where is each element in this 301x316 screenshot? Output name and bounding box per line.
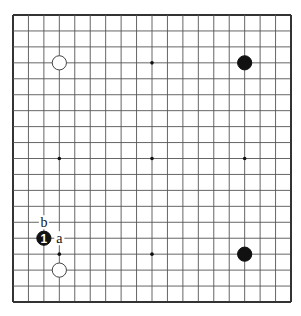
black-stone xyxy=(238,56,252,70)
star-point xyxy=(58,252,62,256)
star-point xyxy=(150,157,154,161)
star-point xyxy=(150,61,154,65)
marker-label-a: a xyxy=(56,231,63,246)
star-point xyxy=(58,157,62,161)
stones: 1 xyxy=(37,56,252,277)
stone-number-label: 1 xyxy=(41,232,48,246)
marker-label-b: b xyxy=(40,215,47,230)
black-stone xyxy=(238,247,252,261)
star-point xyxy=(150,252,154,256)
star-point xyxy=(243,157,247,161)
go-board: 1 ab xyxy=(0,0,301,316)
white-stone xyxy=(52,56,66,70)
white-stone xyxy=(52,263,66,277)
